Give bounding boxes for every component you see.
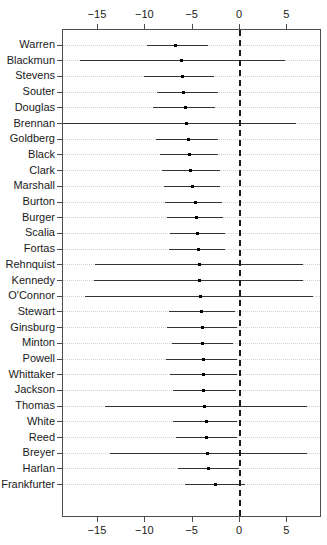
zero-reference-line <box>239 30 241 516</box>
y-axis-label: Jackson <box>15 384 55 395</box>
y-axis-label: Whittaker <box>9 369 55 380</box>
estimate-point <box>201 342 204 345</box>
y-tick <box>57 327 62 328</box>
x-tick-bottom <box>239 517 240 522</box>
estimate-point <box>214 483 217 486</box>
estimate-point <box>185 122 188 125</box>
plot-border-right <box>320 29 321 517</box>
estimate-point <box>181 75 184 78</box>
y-tick <box>57 264 62 265</box>
y-tick <box>57 406 62 407</box>
estimate-point <box>202 358 205 361</box>
estimate-point <box>189 169 192 172</box>
y-tick <box>57 186 62 187</box>
estimate-point <box>195 216 198 219</box>
y-tick <box>57 154 62 155</box>
estimate-point <box>187 138 190 141</box>
y-axis-label: O'Connor <box>8 290 55 301</box>
estimate-point <box>206 452 209 455</box>
y-axis-label: Kennedy <box>12 275 55 286</box>
estimate-point <box>180 59 183 62</box>
y-tick <box>57 374 62 375</box>
x-tick-label-bottom: −5 <box>177 524 207 536</box>
estimate-point <box>196 232 199 235</box>
y-tick <box>57 60 62 61</box>
x-tick-top <box>192 24 193 29</box>
y-axis-label: Frankfurter <box>1 479 55 490</box>
estimate-point <box>207 467 210 470</box>
estimate-point <box>203 405 206 408</box>
dot-whisker-plot: −15−10−505 −15−10−505 WarrenBlackmunStev… <box>0 0 327 545</box>
x-tick-label-top: −10 <box>129 8 159 20</box>
estimate-point <box>205 420 208 423</box>
estimate-point <box>174 44 177 47</box>
x-tick-bottom <box>144 517 145 522</box>
confidence-interval-line <box>63 123 296 124</box>
x-tick-bottom <box>286 517 287 522</box>
y-axis-label: Reed <box>29 432 55 443</box>
y-tick <box>57 453 62 454</box>
y-axis-label: Powell <box>23 353 55 364</box>
x-tick-label-bottom: 5 <box>271 524 301 536</box>
x-tick-top <box>97 24 98 29</box>
x-tick-bottom <box>97 517 98 522</box>
y-axis-label: Minton <box>22 337 55 348</box>
confidence-interval-line <box>157 92 219 93</box>
y-tick <box>57 76 62 77</box>
plot-border-left <box>62 29 63 517</box>
x-tick-top <box>286 24 287 29</box>
y-axis-label: Thomas <box>15 400 55 411</box>
y-axis-label: Breyer <box>23 447 55 458</box>
estimate-point <box>191 185 194 188</box>
y-tick <box>57 202 62 203</box>
y-tick <box>57 359 62 360</box>
y-tick <box>57 280 62 281</box>
y-axis-label: Burger <box>22 212 55 223</box>
y-axis-label: Goldberg <box>10 133 55 144</box>
y-tick <box>57 170 62 171</box>
y-tick <box>57 249 62 250</box>
y-axis-label: Brennan <box>13 118 55 129</box>
y-axis-label: Harlan <box>23 463 55 474</box>
x-tick-label-bottom: 0 <box>224 524 254 536</box>
y-tick <box>57 217 62 218</box>
y-tick <box>57 45 62 46</box>
y-axis-label: Stewart <box>18 306 55 317</box>
estimate-point <box>188 153 191 156</box>
estimate-point <box>200 310 203 313</box>
x-tick-top <box>144 24 145 29</box>
x-tick-label-top: −15 <box>82 8 112 20</box>
confidence-interval-line <box>147 45 208 46</box>
estimate-point <box>197 248 200 251</box>
y-axis-label: Stevens <box>15 70 55 81</box>
y-axis-label: Rehnquist <box>5 259 55 270</box>
y-axis-label: Clark <box>29 165 55 176</box>
y-tick <box>57 421 62 422</box>
y-tick <box>57 123 62 124</box>
estimate-point <box>205 436 208 439</box>
estimate-point <box>202 389 205 392</box>
y-tick <box>57 484 62 485</box>
x-tick-label-top: 5 <box>271 8 301 20</box>
y-tick <box>57 139 62 140</box>
y-tick <box>57 437 62 438</box>
x-tick-label-bottom: −15 <box>82 524 112 536</box>
x-tick-bottom <box>192 517 193 522</box>
y-axis-label: Blackmun <box>7 55 55 66</box>
y-tick <box>57 311 62 312</box>
estimate-point <box>199 295 202 298</box>
x-tick-top <box>239 24 240 29</box>
y-axis-label: Fortas <box>24 243 55 254</box>
estimate-point <box>198 263 201 266</box>
y-axis-label: Warren <box>19 39 55 50</box>
y-tick <box>57 390 62 391</box>
y-tick <box>57 233 62 234</box>
estimate-point <box>201 326 204 329</box>
y-tick <box>57 92 62 93</box>
x-tick-label-bottom: −10 <box>129 524 159 536</box>
confidence-interval-line <box>144 76 214 77</box>
x-tick-label-top: 0 <box>224 8 254 20</box>
estimate-point <box>202 373 205 376</box>
y-axis-label: White <box>27 416 55 427</box>
estimate-point <box>194 201 197 204</box>
